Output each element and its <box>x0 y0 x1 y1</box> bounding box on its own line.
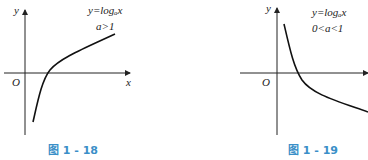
figure-1-19: y O y=logₐx 0<a<1 图 1 - 19 <box>184 0 368 160</box>
condition-label: 0<a<1 <box>312 22 343 34</box>
figure-1-18: y x O y=logₐx a>1 图 1 - 18 <box>0 0 184 160</box>
origin-label: O <box>12 76 20 88</box>
figure-caption: 图 1 - 19 <box>288 141 338 157</box>
figure-caption: 图 1 - 18 <box>48 141 98 157</box>
y-axis-label: y <box>14 4 19 16</box>
log-curve <box>284 24 368 112</box>
x-axis-label: x <box>126 76 131 88</box>
equation-label: y=logₐx <box>88 4 122 16</box>
log-graph-a-gt-1 <box>0 0 184 160</box>
y-axis-label: y <box>266 2 271 14</box>
condition-label: a>1 <box>96 20 114 32</box>
origin-label: O <box>262 76 270 88</box>
equation-label: y=logₐx <box>312 6 346 18</box>
log-curve <box>33 34 115 122</box>
